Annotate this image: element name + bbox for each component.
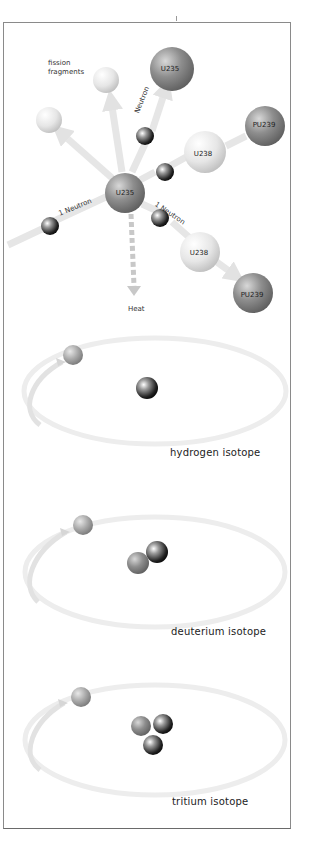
- tritium-nucleus-proton-2: [143, 735, 163, 755]
- lower-u238-label: U238: [190, 250, 208, 257]
- hydrogen-nucleus-proton: [136, 377, 158, 399]
- neutron-top: [136, 127, 154, 145]
- neutron-left: [41, 217, 59, 235]
- lower-pu239-label: PU239: [241, 292, 264, 299]
- deuterium-electron: [73, 515, 93, 535]
- fission-fragments-label-line2: fragments: [48, 69, 84, 76]
- hydrogen-electron: [63, 345, 83, 365]
- tritium-nucleus-neutron: [131, 716, 151, 736]
- tritium-nucleus-proton-1: [153, 714, 173, 734]
- hydrogen-isotope-caption: hydrogen isotope: [170, 447, 260, 458]
- tritium-isotope-caption: tritium isotope: [172, 796, 248, 807]
- target-u235-label: U235: [161, 66, 179, 73]
- heat-arrow: [127, 214, 141, 296]
- fission-fragment-1: [93, 67, 119, 93]
- deuterium-isotope-caption: deuterium isotope: [171, 626, 266, 637]
- fission-fragment-2: [36, 107, 62, 133]
- upper-pu239-label: PU239: [253, 122, 276, 129]
- upper-u238-label: U238: [194, 151, 212, 158]
- central-u235-label: U235: [116, 190, 134, 197]
- tritium-electron: [71, 687, 91, 707]
- deuterium-orbit: [25, 517, 285, 627]
- heat-label: Heat: [128, 306, 145, 313]
- deuterium-nucleus-neutron: [127, 552, 149, 574]
- neutron-mid: [156, 163, 174, 181]
- deuterium-nucleus-proton: [146, 541, 168, 563]
- fission-fragments-label-line1: fission: [48, 60, 70, 67]
